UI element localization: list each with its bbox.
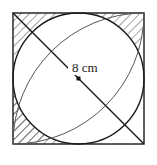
centre-point-marker — [77, 77, 81, 81]
shaded-region-bottom-right — [0, 0, 157, 165]
geometry-figure: 8 cm — [0, 0, 157, 165]
geometry-diagram: 8 cm — [0, 0, 157, 165]
diagonal-measurement-label: 8 cm — [72, 60, 98, 75]
